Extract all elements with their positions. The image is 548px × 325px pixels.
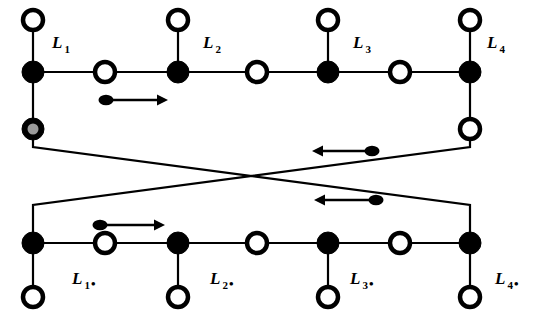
node-black-bottom-chain-2: [167, 232, 189, 254]
node-black-top-chain-2: [167, 61, 189, 83]
node-black-top-chain-6: [459, 61, 481, 83]
label-bottom-L1-subscript: 1: [84, 279, 90, 291]
label-bottom-L4-base: L: [494, 269, 505, 288]
arrow-bottom-right-blob: [93, 220, 108, 230]
arrow-mid-left-2-blob: [369, 195, 384, 205]
node-white-top-chain-3: [247, 62, 267, 82]
node-white-bottom-chain-1: [95, 233, 115, 253]
node-black-top-chain-0: [22, 61, 44, 83]
node-white-bottom-down-3: [460, 287, 480, 307]
label-bottom-L3-base: L: [349, 269, 360, 288]
label-bottom-L3-subscript: 3: [362, 279, 368, 291]
label-top-L3-subscript: 3: [365, 43, 371, 55]
label-bottom-L4-subscript: 4: [507, 279, 513, 291]
label-bottom-L2-subscript: 2: [222, 279, 228, 291]
node-black-bottom-chain-0: [22, 232, 44, 254]
label-bottom-L1-base: L: [71, 269, 82, 288]
label-top-L1-base: L: [51, 33, 62, 52]
node-white-bottom-down-2: [318, 287, 338, 307]
label-top-L4-base: L: [486, 33, 497, 52]
label-bottom-L2-dot: •: [229, 276, 234, 291]
node-white-top-up-0: [23, 10, 43, 30]
node-white-bottom-chain-3: [247, 233, 267, 253]
node-white-top-up-2: [318, 10, 338, 30]
label-bottom-L4-dot: •: [514, 276, 519, 291]
node-gray-inner-top-down-0: [28, 124, 39, 135]
node-white-top-chain-1: [95, 62, 115, 82]
label-bottom-L1-dot: •: [91, 276, 96, 291]
arrow-top-right-blob: [99, 95, 114, 105]
node-black-top-chain-4: [317, 61, 339, 83]
label-top-L3-base: L: [352, 33, 363, 52]
label-top-L2-subscript: 2: [215, 43, 221, 55]
label-bottom-L2-base: L: [209, 269, 220, 288]
node-white-top-chain-5: [390, 62, 410, 82]
node-black-bottom-chain-6: [459, 232, 481, 254]
node-black-bottom-chain-4: [317, 232, 339, 254]
label-top-L4-subscript: 4: [499, 43, 505, 55]
node-white-top-up-3: [460, 10, 480, 30]
label-bottom-L3-dot: •: [369, 276, 374, 291]
node-white-bottom-chain-5: [390, 233, 410, 253]
arrow-mid-left-blob: [365, 146, 380, 156]
lattice-diagram-svg: L1L2L3L4L1•L2•L3•L4•: [0, 0, 548, 325]
lattice-diagram-canvas: L1L2L3L4L1•L2•L3•L4•: [0, 0, 548, 325]
node-white-top-down-1: [460, 119, 480, 139]
node-white-bottom-down-1: [168, 287, 188, 307]
label-top-L1-subscript: 1: [64, 43, 70, 55]
node-white-bottom-down-0: [23, 287, 43, 307]
label-top-L2-base: L: [202, 33, 213, 52]
node-white-top-up-1: [168, 10, 188, 30]
